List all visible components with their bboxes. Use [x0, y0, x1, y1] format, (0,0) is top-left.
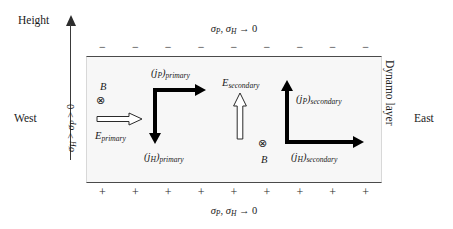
positive-charge-sign: + — [165, 185, 172, 200]
secondary-magnetic-field-label: B — [261, 155, 267, 166]
primary-hall-current-shaft — [153, 88, 157, 135]
primary-efield-label: Eprimary — [95, 131, 126, 142]
negative-charge-sign: − — [198, 40, 205, 55]
negative-charge-sign: − — [296, 40, 303, 55]
primary-hall-current-label: (jH)primary — [144, 152, 184, 163]
positive-charge-sign: + — [296, 185, 303, 200]
negative-charge-sign: − — [263, 40, 270, 55]
bottom-positive-charge-row: +++++++++ — [86, 185, 382, 199]
positive-charge-sign: + — [198, 185, 205, 200]
secondary-pedersen-current-shaft — [285, 90, 289, 144]
bottom-boundary-conductivity-label: σP, σH → 0 — [211, 206, 258, 217]
primary-pedersen-current-shaft — [153, 88, 197, 92]
primary-magnetic-field-label: B — [100, 82, 106, 93]
negative-charge-sign: − — [132, 40, 139, 55]
secondary-efield-subscript: secondary — [228, 81, 259, 90]
negative-charge-sign: − — [231, 40, 238, 55]
secondary-efield-label: Esecondary — [222, 78, 259, 89]
east-label: East — [414, 113, 434, 125]
secondary-pedersen-current-head — [281, 80, 293, 91]
conductivity-inequality-label: σH > σP > 0 — [66, 104, 77, 152]
positive-charge-sign: + — [231, 185, 238, 200]
west-label: West — [14, 113, 37, 125]
primary-efield-subscript: primary — [101, 134, 125, 143]
primary-pedersen-current-head — [195, 84, 206, 96]
figure-canvas: Height σH > σP > 0 σP, σH → 0 σP, σH → 0… — [0, 0, 453, 229]
positive-charge-sign: + — [329, 185, 336, 200]
top-boundary-conductivity-label: σP, σH → 0 — [211, 24, 258, 35]
positive-charge-sign: + — [362, 185, 369, 200]
negative-charge-sign: − — [362, 40, 369, 55]
primary-pedersen-current-label: (jP)primary — [151, 68, 190, 79]
primary-efield-arrow — [96, 112, 144, 130]
secondary-hall-current-shaft — [285, 140, 355, 144]
otimes-into-page-icon-secondary: ⊗ — [258, 138, 267, 149]
dynamo-layer-label: Dynamo layer — [384, 60, 396, 125]
top-negative-charge-row: −−−−−−−−− — [86, 40, 382, 54]
otimes-into-page-icon-primary: ⊗ — [96, 95, 105, 106]
positive-charge-sign: + — [263, 185, 270, 200]
negative-charge-sign: − — [99, 40, 106, 55]
secondary-hall-current-head — [353, 136, 364, 148]
secondary-efield-arrow — [232, 92, 248, 144]
primary-hall-current-head — [149, 133, 161, 144]
negative-charge-sign: − — [329, 40, 336, 55]
positive-charge-sign: + — [99, 185, 106, 200]
secondary-hall-current-label: (jH)secondary — [291, 152, 337, 163]
height-axis-label: Height — [18, 15, 49, 27]
secondary-pedersen-current-label: (jP)secondary — [296, 94, 342, 105]
positive-charge-sign: + — [132, 185, 139, 200]
negative-charge-sign: − — [165, 40, 172, 55]
